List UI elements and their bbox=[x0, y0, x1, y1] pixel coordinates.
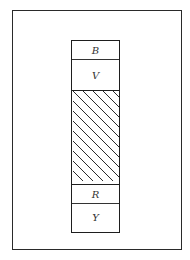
diagonal-hatch-pattern bbox=[73, 91, 119, 184]
band-r: R bbox=[72, 185, 119, 204]
band-y: Y bbox=[72, 204, 119, 231]
band-b: B bbox=[72, 41, 119, 60]
band-b-label: B bbox=[92, 45, 99, 56]
band-v: V bbox=[72, 60, 119, 91]
band-v-label: V bbox=[92, 70, 99, 81]
band-hatched bbox=[72, 91, 119, 185]
band-y-label: Y bbox=[92, 212, 99, 223]
band-r-label: R bbox=[92, 189, 100, 200]
stacked-column: B V bbox=[71, 40, 120, 233]
